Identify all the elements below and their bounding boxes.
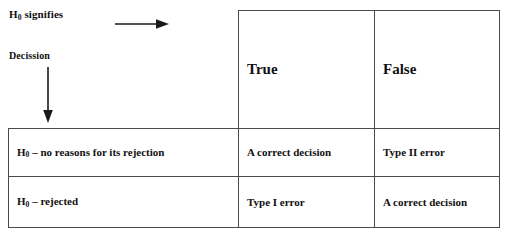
row-header-2-subscript: 0 xyxy=(26,200,30,209)
down-arrow-icon xyxy=(38,66,58,124)
table-cell-type-i-error: Type I error xyxy=(238,176,375,228)
table-row-header-no-rejection: H0 – no reasons for its rejection xyxy=(8,128,239,177)
table-cell-text: Type I error xyxy=(239,196,309,209)
table-cell-correct-decision-true: A correct decision xyxy=(238,128,375,177)
column-header-false-label: False xyxy=(375,61,420,78)
table-cell-text: A correct decision xyxy=(375,196,471,209)
table-cell-type-ii-error: Type II error xyxy=(374,128,500,177)
column-axis-legend-label: Decission xyxy=(9,50,50,62)
row-header-1-suffix: – no reasons for its rejection xyxy=(29,146,164,158)
row-header-1-prefix: H xyxy=(17,146,26,158)
column-header-true-label: True xyxy=(239,61,282,78)
row-header-2-prefix: H xyxy=(17,195,26,207)
table-cell-correct-decision-false: A correct decision xyxy=(374,176,500,228)
row-header-label-2: H0 – rejected xyxy=(9,195,82,209)
row-axis-legend-subscript: 0 xyxy=(18,13,22,22)
row-axis-legend-label: H0 signifies xyxy=(9,8,63,22)
column-header-true: True xyxy=(238,10,375,129)
row-axis-legend-suffix: signifies xyxy=(22,8,64,20)
column-header-false: False xyxy=(374,10,500,129)
row-axis-legend-prefix: H xyxy=(9,8,18,20)
table-cell-text: Type II error xyxy=(375,146,449,159)
right-arrow-icon xyxy=(114,16,170,32)
row-header-label-1: H0 – no reasons for its rejection xyxy=(9,146,168,160)
row-header-2-suffix: – rejected xyxy=(29,195,78,207)
table-cell-text: A correct decision xyxy=(239,146,335,159)
hypothesis-test-decision-table: H0 signifies Decission True False H0 – n… xyxy=(0,0,512,239)
table-row-header-rejected: H0 – rejected xyxy=(8,176,239,228)
row-header-1-subscript: 0 xyxy=(26,150,30,159)
